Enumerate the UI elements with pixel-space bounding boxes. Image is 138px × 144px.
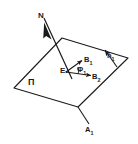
point-a1-line (78, 107, 89, 124)
label-vector-b2-subscript: 2 (97, 77, 100, 83)
label-point-e: E (60, 67, 65, 75)
diagram-canvas (0, 0, 138, 144)
label-vector-b1: B1 (84, 56, 92, 66)
geometric-diagram-figure: N П E B1 B2 Φ1 n1 A1 (0, 0, 138, 144)
label-normal-vector-subscript: 1 (112, 56, 115, 62)
point-e-marker (66, 71, 68, 73)
label-normal-vector: n1 (107, 52, 115, 62)
label-point-a1-subscript: 1 (90, 130, 93, 136)
label-vector-b2: B2 (92, 73, 100, 83)
label-vector-b1-subscript: 1 (89, 60, 92, 66)
label-point-a1: A1 (85, 126, 93, 136)
normal-axis-line (44, 18, 72, 79)
label-plane-pi: П (28, 78, 34, 87)
label-angle-phi-subscript: 1 (83, 70, 86, 76)
label-angle-phi: Φ1 (77, 66, 86, 76)
label-normal-axis: N (38, 12, 44, 20)
